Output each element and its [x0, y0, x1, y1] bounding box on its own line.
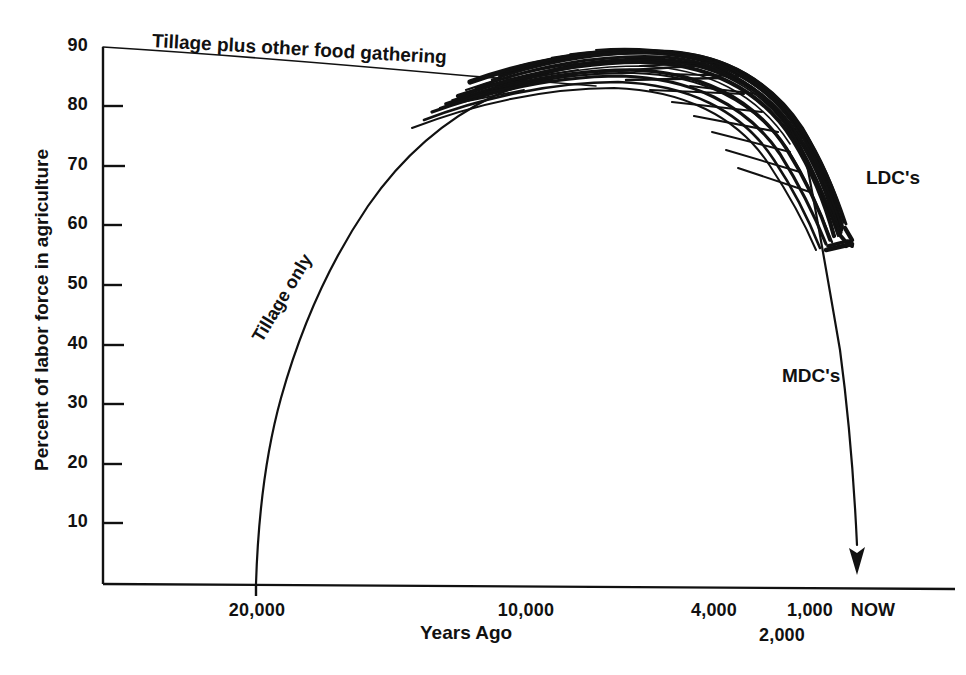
x-tick-label-now: NOW — [836, 600, 910, 621]
y-tick-marks — [103, 47, 125, 523]
series-tillage-only — [256, 76, 572, 584]
x-tick-label-10000: 10,000 — [470, 600, 582, 621]
ldc-stroke — [424, 82, 820, 248]
x-axis-title: Years Ago — [420, 622, 512, 644]
axis-lines — [103, 47, 955, 589]
y-tick-label-80: 80 — [42, 94, 88, 115]
y-tick-label-90: 90 — [42, 35, 88, 56]
annotation-ldc: LDC's — [866, 167, 920, 189]
tillage-only-curve — [256, 76, 572, 584]
chart-figure: 90 80 70 60 50 40 30 20 10 20,000 10,000… — [0, 0, 966, 675]
arrowhead-polygon — [849, 547, 865, 575]
x-tick-label-2000: 2,000 — [736, 625, 828, 646]
chart-plot-area — [0, 0, 966, 675]
x-tick-label-20000: 20,000 — [201, 600, 313, 621]
y-axis-title: Percent of labor force in agriculture — [31, 151, 53, 471]
mdc-arrowhead — [849, 547, 865, 575]
series-ldc-bundle — [412, 49, 852, 250]
x-axis-line — [103, 584, 955, 589]
annotation-mdc: MDC's — [782, 365, 840, 387]
x-tick-label-4000: 4,000 — [668, 600, 760, 621]
y-tick-label-10: 10 — [42, 511, 88, 532]
